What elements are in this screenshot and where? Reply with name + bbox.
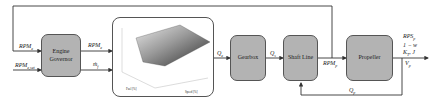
label-rpm-e-out: RPMe [88, 42, 102, 50]
label-q-s: Qs [270, 50, 276, 58]
label-q-e: Qe [217, 50, 223, 58]
label-v-p: Vp [405, 60, 411, 68]
propeller-block: Propeller [346, 35, 393, 81]
output-labels: RPSp1 − wKT, J [403, 33, 417, 57]
gearbox-block: Gearbox [230, 35, 266, 81]
engine-map-ylabel: Fuel [%] [126, 88, 137, 91]
label-rpm-e-feedback: RPMe [19, 43, 33, 51]
engine-map-block [112, 17, 214, 97]
engine-governor-block: Engine Governor [41, 34, 81, 77]
engine-map-xlabel: Speed [%] [185, 91, 198, 94]
label-rpm-e-set: RPMe,set [15, 62, 35, 70]
label-m-f: ṁf [93, 61, 98, 69]
label-q-p: Qp [349, 87, 355, 95]
label-rpm-p: RPMp [323, 60, 337, 68]
shaft-line-block: Shaft Line [283, 35, 318, 81]
